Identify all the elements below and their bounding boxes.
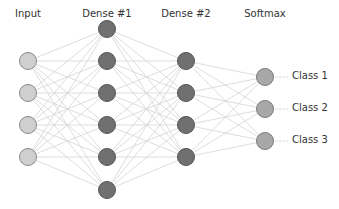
neuron-node — [257, 101, 274, 118]
layer-title-dense-2: Dense #2 — [161, 8, 210, 19]
neuron-node — [99, 117, 116, 134]
neuron-node — [20, 117, 37, 134]
neuron-node — [99, 149, 116, 166]
connection-edge — [107, 125, 186, 190]
connection-edge — [107, 93, 186, 190]
connection-edge — [186, 77, 265, 157]
connection-edge — [28, 157, 107, 190]
neuron-node — [178, 149, 195, 166]
neuron-node — [99, 53, 116, 70]
connection-edge — [186, 77, 265, 125]
neuron-node — [178, 85, 195, 102]
neuron-node — [178, 117, 195, 134]
neuron-node — [99, 85, 116, 102]
neuron-node — [257, 69, 274, 86]
connection-edge — [28, 29, 107, 61]
connection-edge — [28, 125, 107, 190]
output-label-class-1: Class 1 — [292, 70, 328, 81]
connection-edge — [186, 77, 265, 93]
connection-edge — [28, 29, 107, 125]
connection-edge — [186, 61, 265, 77]
connection-edge — [186, 109, 265, 157]
neuron-node — [99, 21, 116, 38]
layer-title-dense-1: Dense #1 — [82, 8, 131, 19]
network-diagram — [0, 0, 339, 209]
neuron-node — [20, 53, 37, 70]
connection-edge — [107, 157, 186, 190]
connection-edge — [107, 61, 186, 190]
neuron-node — [99, 182, 116, 199]
neuron-node — [178, 53, 195, 70]
neuron-node — [20, 85, 37, 102]
connection-edge — [186, 141, 265, 157]
neuron-node — [20, 149, 37, 166]
output-label-class-3: Class 3 — [292, 134, 328, 145]
connection-edge — [107, 29, 186, 61]
connection-edge — [28, 93, 107, 190]
output-label-class-2: Class 2 — [292, 102, 328, 113]
connections — [28, 29, 265, 190]
neuron-node — [257, 133, 274, 150]
layer-title-input: Input — [15, 8, 41, 19]
layer-title-softmax: Softmax — [244, 8, 286, 19]
